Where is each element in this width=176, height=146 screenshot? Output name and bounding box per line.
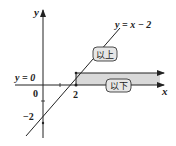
y-tick-label-minus-2: −2 (23, 111, 34, 122)
x-axis-label: x (161, 85, 168, 97)
y-intercept-dot (42, 122, 44, 124)
inequality-graph: y x 0 2 −2 y = 0 y = x − 2 以上 以下 (0, 0, 176, 146)
function-line-label: y = x − 2 (114, 19, 151, 30)
range-start-dot (75, 72, 78, 75)
y-axis-label: y (32, 6, 39, 18)
intersection-dot (75, 84, 78, 87)
tag-above-label: 以上 (96, 50, 114, 60)
origin-label: 0 (33, 88, 38, 99)
boundary-line-label: y = 0 (14, 72, 35, 83)
x-tick-label-2: 2 (73, 89, 78, 100)
tag-below-label: 以下 (110, 81, 128, 91)
